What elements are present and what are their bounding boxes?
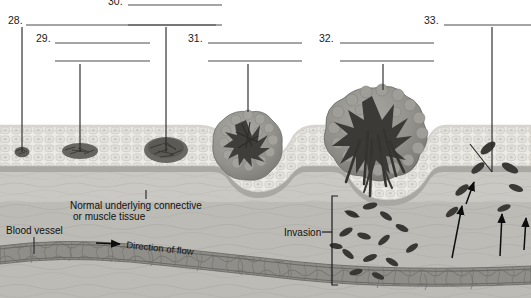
label-29-number: 29. bbox=[36, 32, 51, 44]
blood-vessel-label: Blood vessel bbox=[6, 225, 63, 236]
cancer-progression-diagram: 28. 29. 30. 31. bbox=[0, 0, 531, 298]
invasive-tumor-nodule bbox=[213, 110, 283, 180]
connective-tissue-line1: Normal underlying connective bbox=[70, 200, 202, 211]
label-31[interactable]: 31. bbox=[188, 32, 302, 112]
label-33-number: 33. bbox=[424, 14, 439, 26]
label-31-number: 31. bbox=[188, 32, 203, 44]
invasion-label: Invasion bbox=[284, 227, 321, 238]
label-30-number: 30. bbox=[108, 0, 123, 7]
flow-arrow bbox=[96, 243, 120, 244]
label-32-number: 32. bbox=[319, 32, 334, 44]
label-32[interactable]: 32. bbox=[319, 32, 434, 90]
connective-tissue-line2: or muscle tissue bbox=[73, 211, 146, 222]
label-28-number: 28. bbox=[8, 14, 23, 26]
diagram-canvas: 28. 29. 30. 31. bbox=[0, 0, 531, 298]
